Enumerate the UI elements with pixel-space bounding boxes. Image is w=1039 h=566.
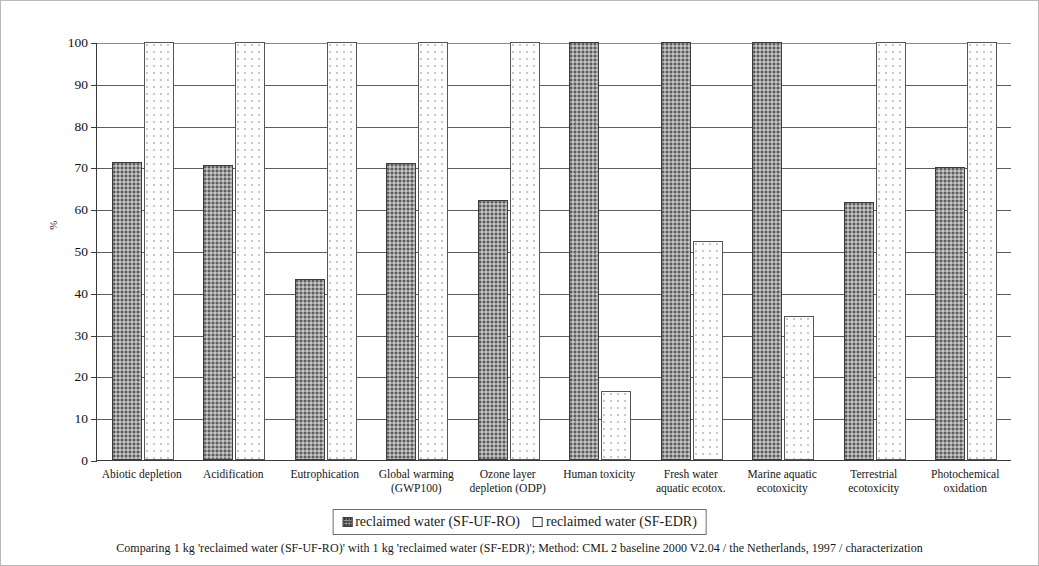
y-tick-label: 50 bbox=[75, 246, 89, 258]
y-tick-label: 90 bbox=[75, 79, 89, 91]
bar-series2 bbox=[144, 42, 174, 460]
bar-series1 bbox=[935, 167, 965, 460]
figure-frame: % 1009080706050403020100 Abiotic depleti… bbox=[0, 0, 1039, 566]
bar-series2 bbox=[693, 241, 723, 460]
bar-series2 bbox=[418, 42, 448, 460]
y-tick-label: 60 bbox=[75, 204, 89, 216]
category-group bbox=[921, 43, 1013, 460]
bar-series2 bbox=[601, 391, 631, 460]
category-group bbox=[555, 43, 647, 460]
category-group bbox=[280, 43, 372, 460]
bar-series2 bbox=[235, 42, 265, 460]
bar-series1 bbox=[844, 202, 874, 460]
stippled-gray-swatch bbox=[342, 517, 352, 527]
bar-series1 bbox=[295, 279, 325, 460]
bar-series1 bbox=[661, 42, 691, 460]
bar-series1 bbox=[478, 200, 508, 460]
legend-item[interactable]: reclaimed water (SF-EDR) bbox=[533, 514, 697, 530]
category-group bbox=[829, 43, 921, 460]
bar-series1 bbox=[569, 42, 599, 460]
legend-label: reclaimed water (SF-UF-RO) bbox=[355, 514, 520, 529]
y-axis-tick-labels: 1009080706050403020100 bbox=[56, 37, 88, 461]
y-tick-label: 40 bbox=[75, 288, 89, 300]
y-tick-label: 80 bbox=[75, 121, 89, 133]
category-group bbox=[463, 43, 555, 460]
x-axis-label-line: Photochemical bbox=[908, 467, 1024, 481]
bar-series2 bbox=[327, 42, 357, 460]
bar-series1 bbox=[112, 162, 142, 460]
y-tick-label: 30 bbox=[75, 330, 89, 342]
y-tick-label: 100 bbox=[68, 37, 88, 49]
legend-item[interactable]: reclaimed water (SF-UF-RO) bbox=[342, 514, 520, 530]
bar-series1 bbox=[386, 163, 416, 460]
category-group bbox=[738, 43, 830, 460]
bar-series2 bbox=[876, 42, 906, 460]
bar-series1 bbox=[752, 42, 782, 460]
bar-series2 bbox=[967, 42, 997, 460]
bar-series1 bbox=[203, 165, 233, 460]
figure-caption: Comparing 1 kg 'reclaimed water (SF-UF-R… bbox=[1, 541, 1038, 556]
category-group bbox=[189, 43, 281, 460]
chart-legend: reclaimed water (SF-UF-RO)reclaimed wate… bbox=[332, 509, 707, 535]
x-axis-label-line: oxidation bbox=[908, 481, 1024, 495]
y-tick-label: 20 bbox=[75, 371, 89, 383]
category-group bbox=[372, 43, 464, 460]
bar-series2 bbox=[784, 316, 814, 460]
bars-layer bbox=[97, 43, 1011, 460]
legend-label: reclaimed water (SF-EDR) bbox=[546, 514, 697, 529]
category-group bbox=[646, 43, 738, 460]
y-tick-label: 70 bbox=[75, 162, 89, 174]
category-group bbox=[97, 43, 189, 460]
bar-series2 bbox=[510, 42, 540, 460]
y-tick-label: 10 bbox=[75, 413, 89, 425]
plot-area bbox=[96, 43, 1011, 461]
y-tick-mark bbox=[91, 461, 97, 462]
x-axis-label-line: depletion (ODP) bbox=[450, 481, 566, 495]
x-axis-label: Photochemicaloxidation bbox=[908, 467, 1024, 495]
y-tick-label: 0 bbox=[81, 455, 88, 467]
x-axis-category-labels: Abiotic depletionAcidificationEutrophica… bbox=[96, 467, 1011, 511]
white-swatch bbox=[533, 517, 543, 527]
